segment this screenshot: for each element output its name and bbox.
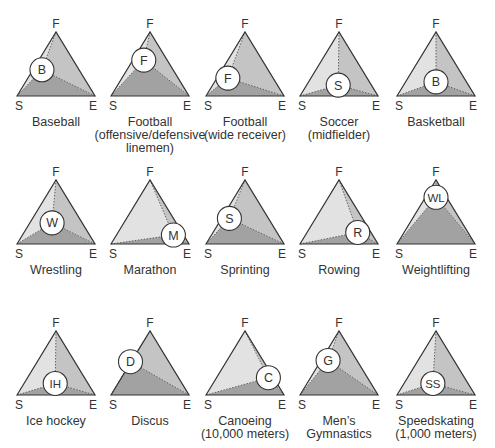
vertex-label-flexibility: F bbox=[241, 165, 248, 179]
sport-name: Football bbox=[128, 115, 172, 129]
vertex-label-endurance: E bbox=[278, 99, 286, 113]
vertex-label-endurance: E bbox=[278, 398, 286, 412]
sport-name: Men’s bbox=[322, 414, 355, 428]
vertex-label-flexibility: F bbox=[241, 316, 248, 330]
vertex-label-strength: S bbox=[15, 99, 23, 113]
vertex-label-endurance: E bbox=[278, 247, 286, 261]
sport-name: Ice hockey bbox=[26, 414, 87, 428]
vertex-label-strength: S bbox=[109, 99, 117, 113]
sport-name: Gymnastics bbox=[306, 427, 371, 441]
sport-name: Basketball bbox=[407, 115, 465, 129]
vertex-label-flexibility: F bbox=[146, 165, 153, 179]
vertex-label-flexibility: F bbox=[241, 17, 248, 31]
sport-name: (midfielder) bbox=[308, 128, 371, 142]
sport-marker-label: W bbox=[46, 216, 58, 230]
vertex-label-flexibility: F bbox=[335, 316, 342, 330]
vertex-label-endurance: E bbox=[89, 247, 97, 261]
sport-name: linemen) bbox=[126, 141, 174, 155]
sport-name: Canoeing bbox=[218, 414, 272, 428]
vertex-label-strength: S bbox=[298, 99, 306, 113]
sport-panel: FSEBBasketball bbox=[395, 17, 477, 129]
sport-name: Baseball bbox=[32, 115, 80, 129]
vertex-label-strength: S bbox=[395, 398, 403, 412]
sport-marker-label: F bbox=[224, 72, 232, 86]
vertex-label-flexibility: F bbox=[146, 17, 153, 31]
vertex-label-flexibility: F bbox=[432, 165, 439, 179]
vertex-label-endurance: E bbox=[372, 398, 380, 412]
sport-panel: FSEFFootball(offensive/defensivelinemen) bbox=[95, 17, 206, 155]
sport-name: Soccer bbox=[320, 115, 359, 129]
sport-name: Rowing bbox=[318, 263, 360, 277]
vertex-label-flexibility: F bbox=[52, 165, 59, 179]
sport-marker-label: SS bbox=[425, 378, 441, 390]
sport-name: Marathon bbox=[124, 263, 177, 277]
vertex-label-endurance: E bbox=[469, 247, 477, 261]
vertex-label-endurance: E bbox=[469, 398, 477, 412]
sport-panel: FSECCanoeing(10,000 meters) bbox=[201, 316, 289, 441]
sport-marker-label: C bbox=[264, 371, 273, 385]
sport-marker-label: B bbox=[38, 63, 46, 77]
vertex-label-strength: S bbox=[204, 99, 212, 113]
sport-marker-label: WL bbox=[427, 192, 445, 204]
sport-marker-label: M bbox=[168, 229, 178, 243]
vertex-label-endurance: E bbox=[183, 398, 191, 412]
vertex-label-endurance: E bbox=[372, 99, 380, 113]
sport-panel: FSEFFootball(wide receiver) bbox=[204, 17, 286, 142]
vertex-label-flexibility: F bbox=[52, 316, 59, 330]
sport-name: (offensive/defensive bbox=[95, 128, 206, 142]
vertex-label-strength: S bbox=[298, 398, 306, 412]
sport-panel: FSEWLWeightlifting bbox=[395, 165, 477, 277]
sport-marker-label: B bbox=[432, 75, 440, 89]
sport-marker-label: D bbox=[126, 355, 135, 369]
vertex-label-strength: S bbox=[204, 247, 212, 261]
sport-panel: FSEBBaseball bbox=[15, 17, 97, 129]
sport-marker-label: G bbox=[323, 354, 333, 368]
sport-panel: FSEDDiscus bbox=[109, 316, 191, 428]
sport-name: Weightlifting bbox=[402, 263, 470, 277]
sport-name: Speedskating bbox=[398, 414, 474, 428]
sport-marker-label: S bbox=[334, 79, 342, 93]
sport-name: Football bbox=[223, 115, 267, 129]
sport-panel: FSESSprinting bbox=[204, 165, 286, 277]
sport-name: (wide receiver) bbox=[204, 128, 286, 142]
vertex-label-flexibility: F bbox=[432, 316, 439, 330]
vertex-label-flexibility: F bbox=[432, 17, 439, 31]
sport-marker-label: S bbox=[225, 212, 233, 226]
sport-panel: FSESSSpeedskating(1,000 meters) bbox=[395, 316, 477, 441]
sport-name: (10,000 meters) bbox=[201, 427, 289, 441]
sport-triangle-diagram: FSEBBaseballFSEFFootball(offensive/defen… bbox=[0, 0, 495, 448]
vertex-label-strength: S bbox=[15, 398, 23, 412]
vertex-label-endurance: E bbox=[89, 99, 97, 113]
sport-panel: FSERRowing bbox=[298, 165, 380, 277]
sport-marker-label: F bbox=[140, 54, 148, 68]
sport-name: Discus bbox=[131, 414, 169, 428]
sport-marker-label: IH bbox=[49, 378, 61, 390]
vertex-label-strength: S bbox=[298, 247, 306, 261]
vertex-label-endurance: E bbox=[89, 398, 97, 412]
sport-panel: FSEWWrestling bbox=[15, 165, 97, 277]
vertex-label-strength: S bbox=[395, 99, 403, 113]
vertex-label-endurance: E bbox=[469, 99, 477, 113]
sport-name: (1,000 meters) bbox=[395, 427, 476, 441]
sport-panel: FSESSoccer(midfielder) bbox=[298, 17, 380, 142]
vertex-label-strength: S bbox=[15, 247, 23, 261]
vertex-label-flexibility: F bbox=[335, 165, 342, 179]
vertex-label-endurance: E bbox=[372, 247, 380, 261]
sport-panel: FSEMMarathon bbox=[109, 165, 191, 277]
sport-name: Sprinting bbox=[220, 263, 269, 277]
vertex-label-flexibility: F bbox=[146, 316, 153, 330]
vertex-label-endurance: E bbox=[183, 99, 191, 113]
sport-panel: FSEIHIce hockey bbox=[15, 316, 97, 428]
vertex-label-strength: S bbox=[109, 398, 117, 412]
vertex-label-strength: S bbox=[109, 247, 117, 261]
vertex-label-flexibility: F bbox=[52, 17, 59, 31]
vertex-label-flexibility: F bbox=[335, 17, 342, 31]
vertex-label-strength: S bbox=[395, 247, 403, 261]
vertex-label-endurance: E bbox=[183, 247, 191, 261]
sport-marker-label: R bbox=[353, 226, 362, 240]
vertex-label-strength: S bbox=[204, 398, 212, 412]
sport-name: Wrestling bbox=[30, 263, 82, 277]
sport-panel: FSEGMen’sGymnastics bbox=[298, 316, 380, 441]
